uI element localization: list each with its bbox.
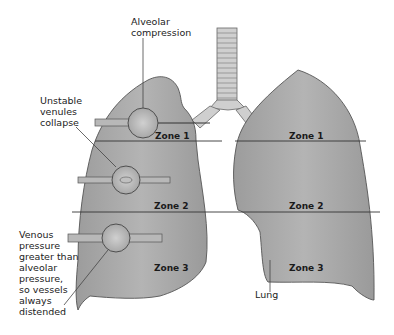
alveolar-compression-label: Alveolar compression xyxy=(131,16,191,38)
right-zone1-label: Zone 1 xyxy=(289,131,324,141)
left-zone2-label: Zone 2 xyxy=(154,201,189,211)
lung-label: Lung xyxy=(255,289,278,300)
right-zone3-label: Zone 3 xyxy=(289,263,324,273)
trachea xyxy=(192,28,258,128)
right-zone2-label: Zone 2 xyxy=(289,201,324,211)
left-zone3-label: Zone 3 xyxy=(154,263,189,273)
unstable-venules-label: Unstable venules collapse xyxy=(40,95,85,128)
left-zone1-label: Zone 1 xyxy=(155,131,190,141)
lung-zones-diagram: Alveolar compression Unstable venules co… xyxy=(0,0,394,335)
